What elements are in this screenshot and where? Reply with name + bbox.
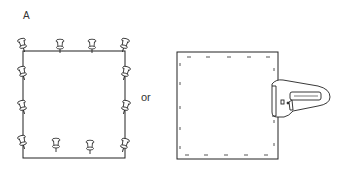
stapled-frame [177, 52, 330, 159]
staple-marks [180, 57, 274, 155]
fabric-frame-right [177, 52, 278, 159]
diagram-canvas [0, 0, 345, 193]
staple-gun-icon [272, 80, 330, 117]
fabric-frame-left [23, 51, 125, 158]
pinned-frame [17, 38, 131, 158]
push-pin-icons [17, 38, 131, 154]
